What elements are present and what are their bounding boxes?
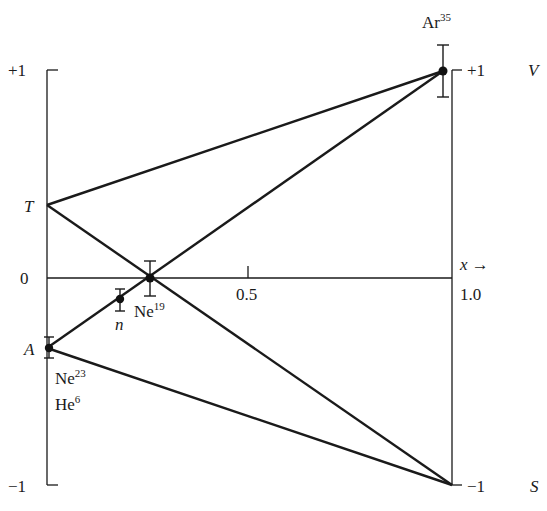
right-top-label: +1 bbox=[467, 61, 485, 80]
S-label: S bbox=[530, 477, 539, 496]
he6-label: He6 bbox=[55, 393, 81, 414]
line-T-to-V bbox=[47, 71, 443, 205]
left-top-label: +1 bbox=[8, 61, 26, 80]
x-tick-end-label: 1.0 bbox=[460, 285, 481, 304]
ar35-label: Ar35 bbox=[422, 11, 451, 32]
ne23-label: Ne23 bbox=[55, 367, 86, 388]
point-ne19 bbox=[144, 261, 156, 296]
T-label: T bbox=[24, 197, 35, 216]
left-zero-label: 0 bbox=[20, 269, 29, 288]
x-axis-label: x → bbox=[459, 255, 489, 274]
left-bottom-label: −1 bbox=[8, 477, 26, 496]
ne19-label: Ne19 bbox=[134, 300, 165, 321]
point-A bbox=[44, 337, 54, 358]
line-T-to-S bbox=[47, 205, 452, 485]
mixing-diagram: +1 0 −1 T A +1 V −1 S x → 0.5 1.0 Ar35 N… bbox=[0, 0, 547, 511]
n-label: n bbox=[115, 315, 124, 334]
A-label: A bbox=[23, 340, 35, 359]
point-n bbox=[115, 289, 125, 311]
line-A-to-V bbox=[47, 71, 443, 348]
V-label: V bbox=[528, 61, 541, 80]
point-ar35 bbox=[437, 45, 449, 97]
right-bottom-label: −1 bbox=[467, 477, 485, 496]
line-A-to-S bbox=[47, 348, 452, 485]
x-tick-mid-label: 0.5 bbox=[236, 285, 257, 304]
